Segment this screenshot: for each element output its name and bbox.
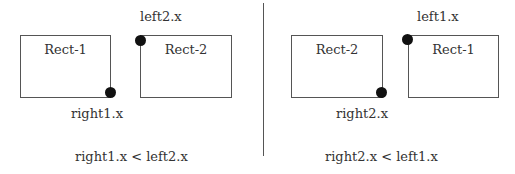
right-panel-rect-2: Rect-2 <box>291 35 383 98</box>
right2-x-label: right2.x <box>336 106 388 121</box>
left-panel-rect-1: Rect-1 <box>20 35 111 98</box>
rect-label: Rect-1 <box>21 42 110 57</box>
left2-x-point-icon <box>135 35 146 46</box>
right2-x-point-icon <box>376 87 387 98</box>
left1-x-point-icon <box>402 34 413 45</box>
left2-x-label: left2.x <box>140 9 182 24</box>
rect-label: Rect-1 <box>409 42 498 57</box>
right1-x-label: right1.x <box>71 106 123 121</box>
right-panel-condition: right2.x < left1.x <box>325 149 438 164</box>
left-panel-condition: right1.x < left2.x <box>75 149 188 164</box>
right1-x-point-icon <box>105 87 116 98</box>
left1-x-label: left1.x <box>417 9 459 24</box>
rect-label: Rect-2 <box>141 42 231 57</box>
right-panel-rect-1: Rect-1 <box>408 35 499 98</box>
rect-label: Rect-2 <box>292 42 382 57</box>
panel-divider <box>263 3 264 156</box>
left-panel-rect-2: Rect-2 <box>140 35 232 98</box>
